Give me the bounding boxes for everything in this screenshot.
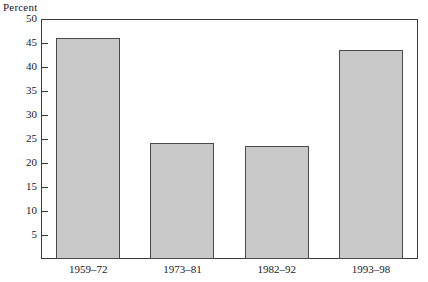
y-tick-mark bbox=[42, 211, 48, 212]
y-tick-mark bbox=[42, 235, 48, 236]
y-tick-mark bbox=[42, 187, 48, 188]
y-tick-label: 25 bbox=[26, 133, 37, 144]
y-tick-label: 10 bbox=[26, 205, 37, 216]
x-tick-label: 1982–92 bbox=[230, 263, 324, 276]
x-tick-label: 1973–81 bbox=[135, 263, 229, 276]
y-tick-label: 5 bbox=[32, 229, 38, 240]
y-tick-mark bbox=[42, 163, 48, 164]
y-tick-mark bbox=[42, 43, 48, 44]
y-tick-mark bbox=[42, 115, 48, 116]
y-tick-mark bbox=[42, 139, 48, 140]
bar bbox=[339, 50, 403, 259]
y-tick-mark bbox=[42, 91, 48, 92]
y-tick-label: 35 bbox=[26, 85, 37, 96]
y-tick-label: 40 bbox=[26, 61, 37, 72]
y-tick-label: 15 bbox=[26, 181, 37, 192]
bar bbox=[150, 143, 214, 259]
y-tick-mark bbox=[42, 67, 48, 68]
x-tick-label: 1959–72 bbox=[41, 263, 135, 276]
y-tick-label: 20 bbox=[26, 157, 37, 168]
y-tick-label: 45 bbox=[26, 37, 37, 48]
bar bbox=[56, 38, 120, 259]
bar bbox=[245, 146, 309, 259]
y-tick-label: 30 bbox=[26, 109, 37, 120]
bar-chart: Percent 5101520253035404550 1959–721973–… bbox=[0, 0, 428, 282]
x-tick-label: 1993–98 bbox=[324, 263, 418, 276]
y-tick-label: 50 bbox=[26, 13, 37, 24]
